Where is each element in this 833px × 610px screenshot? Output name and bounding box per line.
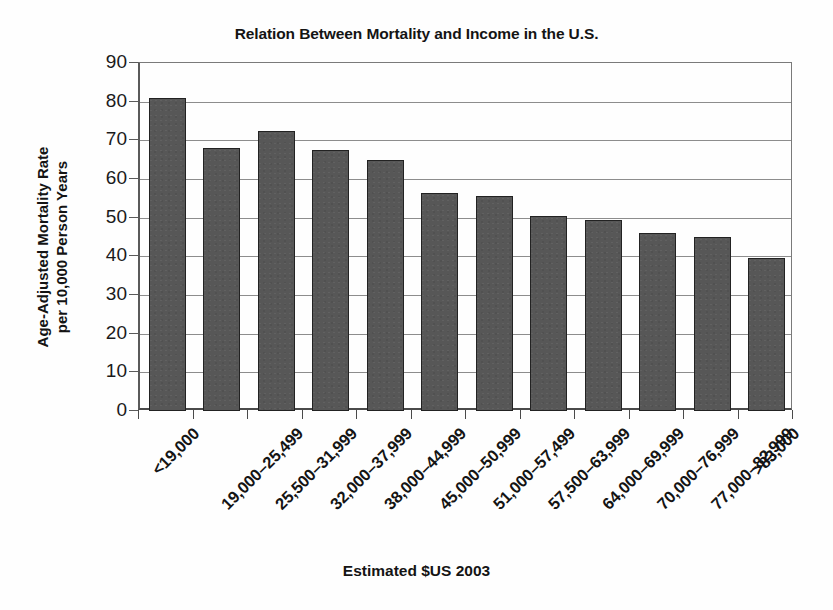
x-axis-tick — [356, 410, 357, 419]
bar — [748, 258, 785, 411]
x-axis-tick — [738, 410, 739, 419]
plot-area — [138, 62, 792, 410]
y-axis-tick — [129, 333, 138, 334]
x-axis-tick — [574, 410, 575, 419]
y-axis-tick-label: 40 — [87, 245, 127, 264]
x-axis-title: Estimated $US 2003 — [0, 562, 833, 580]
y-axis-tick — [129, 101, 138, 102]
x-axis-tick — [629, 410, 630, 419]
y-axis-tick-label: 90 — [87, 52, 127, 71]
chart-title: Relation Between Mortality and Income in… — [0, 25, 833, 43]
y-axis-tick-label: 80 — [87, 91, 127, 110]
bar — [476, 196, 513, 411]
bar — [203, 148, 240, 411]
bar — [258, 131, 295, 411]
x-axis-tick — [520, 410, 521, 419]
y-axis-tick — [129, 294, 138, 295]
x-axis-tick — [411, 410, 412, 419]
y-axis-tick-label: 70 — [87, 129, 127, 148]
y-axis-tick-label: 30 — [87, 284, 127, 303]
y-axis-tick-label: 0 — [87, 400, 127, 419]
bar — [149, 98, 186, 411]
bar — [585, 220, 622, 411]
bar — [530, 216, 567, 411]
gridline — [140, 102, 791, 103]
y-axis-title-line-1: Age-Adjusted Mortality Rate — [33, 67, 52, 427]
y-axis-tick — [129, 178, 138, 179]
y-axis-tick — [129, 255, 138, 256]
y-axis-title-line-2: per 10,000 Person Years — [52, 67, 71, 427]
bar — [421, 193, 458, 411]
bar — [639, 233, 676, 411]
y-axis-title: Age-Adjusted Mortality Rate per 10,000 P… — [33, 67, 71, 427]
x-axis-tick — [683, 410, 684, 419]
x-axis-tick — [193, 410, 194, 419]
bar — [367, 160, 404, 411]
x-axis-tick — [792, 410, 793, 419]
y-axis-tick-label: 10 — [87, 361, 127, 380]
y-axis-tick — [129, 139, 138, 140]
y-axis-tick — [129, 217, 138, 218]
x-axis-tick-label: <19,000 — [148, 424, 203, 479]
mortality-income-bar-chart: Relation Between Mortality and Income in… — [0, 0, 833, 610]
bar — [312, 150, 349, 411]
x-axis-tick — [247, 410, 248, 419]
x-axis-tick — [465, 410, 466, 419]
y-axis-tick — [129, 410, 138, 411]
x-axis-tick — [138, 410, 139, 419]
y-axis-tick — [129, 62, 138, 63]
y-axis-tick-label: 20 — [87, 323, 127, 342]
gridline — [140, 140, 791, 141]
x-axis-tick — [302, 410, 303, 419]
bar — [694, 237, 731, 411]
y-axis-tick-label: 60 — [87, 168, 127, 187]
y-axis-tick — [129, 371, 138, 372]
y-axis-tick-label: 50 — [87, 207, 127, 226]
